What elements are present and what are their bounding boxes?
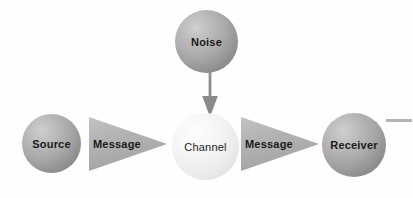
node-receiver[interactable]: Receiver — [322, 113, 386, 177]
edge-rule-decoration — [386, 119, 412, 122]
node-noise-label: Noise — [191, 36, 222, 48]
connector-message-1[interactable]: Message — [89, 117, 167, 171]
node-receiver-label: Receiver — [330, 139, 377, 151]
node-channel-label: Channel — [184, 141, 226, 153]
node-channel[interactable]: Channel — [172, 113, 239, 180]
connector-message-2[interactable]: Message — [241, 117, 319, 171]
node-noise[interactable]: Noise — [175, 10, 238, 73]
diagram-canvas: Noise Source Message Channel — [0, 0, 413, 198]
node-source-label: Source — [32, 138, 71, 150]
connector-message-2-label: Message — [245, 138, 293, 150]
node-source[interactable]: Source — [22, 114, 81, 173]
noise-arrow-icon — [199, 70, 221, 118]
connector-message-1-label: Message — [93, 138, 141, 150]
